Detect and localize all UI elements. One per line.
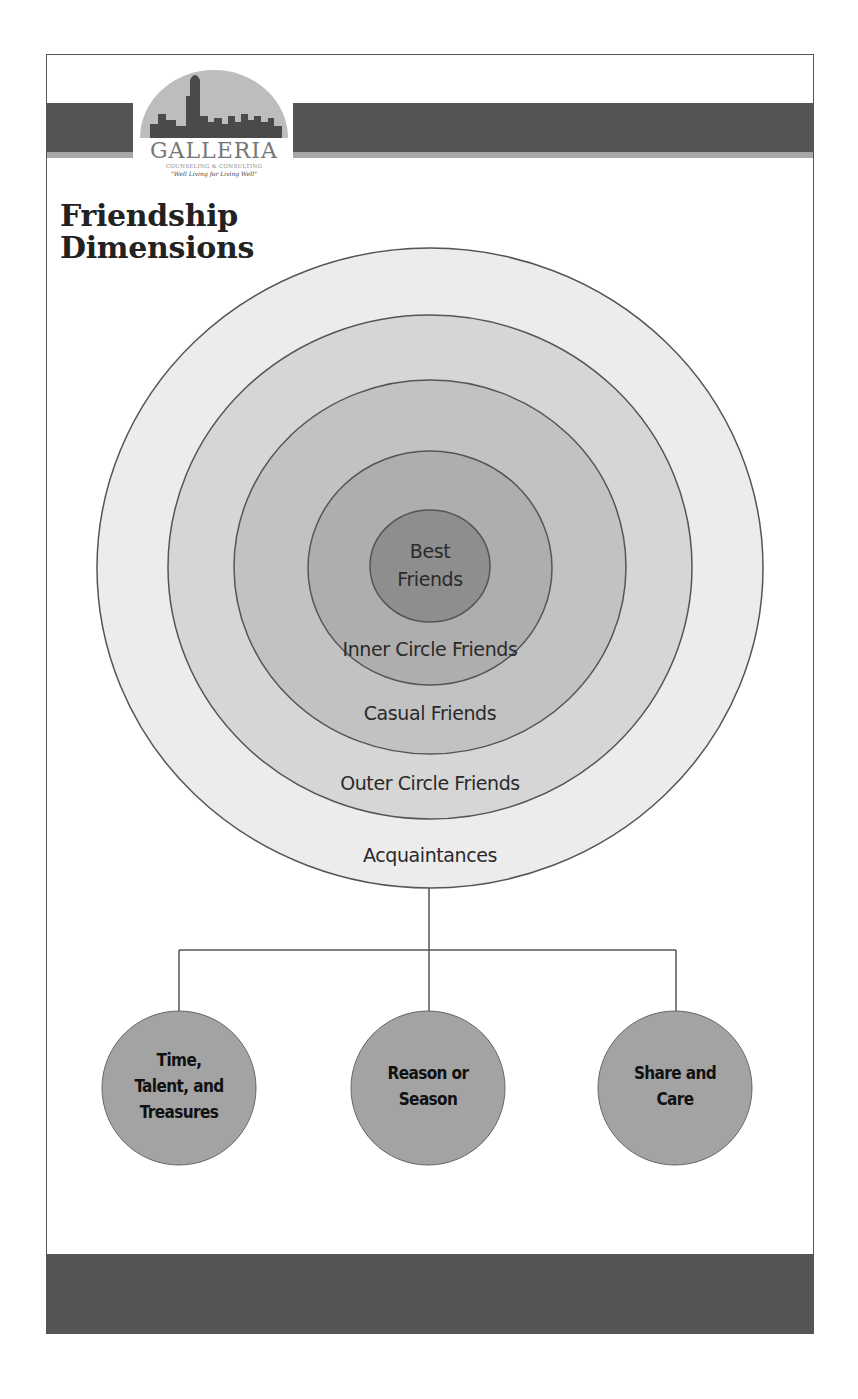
node-reason-or-season: Reason or Season	[353, 1060, 503, 1112]
node-1-line-1: Time,	[104, 1047, 254, 1073]
node-2-line-1: Reason or	[353, 1060, 503, 1086]
node-3-line-1: Share and	[600, 1060, 750, 1086]
page-title: Friendship Dimensions	[60, 200, 254, 264]
label-casual-friends: Casual Friends	[280, 702, 580, 724]
node-2-line-2: Season	[353, 1086, 503, 1112]
title-line-1: Friendship	[60, 200, 254, 232]
node-share-and-care: Share and Care	[600, 1060, 750, 1112]
node-1-line-3: Treasures	[104, 1099, 254, 1125]
best-friends-line-2: Friends	[370, 565, 490, 593]
node-time-talent-treasures: Time, Talent, and Treasures	[104, 1047, 254, 1125]
connector-lines	[179, 888, 676, 1013]
label-inner-circle-friends: Inner Circle Friends	[280, 638, 580, 660]
label-acquaintances: Acquaintances	[280, 844, 580, 866]
node-3-line-2: Care	[600, 1086, 750, 1112]
best-friends-line-1: Best	[370, 537, 490, 565]
label-outer-circle-friends: Outer Circle Friends	[280, 772, 580, 794]
label-best-friends: Best Friends	[370, 537, 490, 593]
node-1-line-2: Talent, and	[104, 1073, 254, 1099]
title-line-2: Dimensions	[60, 232, 254, 264]
footer-bar	[46, 1254, 814, 1334]
